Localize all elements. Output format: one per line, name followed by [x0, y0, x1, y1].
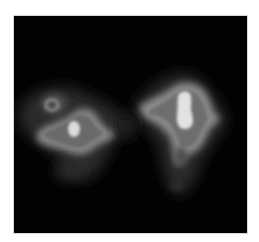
right-blob: [134, 74, 226, 196]
intensity-image: [14, 16, 247, 233]
left-blob: [19, 87, 123, 181]
faint-bridge: [116, 112, 136, 140]
blob-image-svg: [14, 16, 247, 233]
